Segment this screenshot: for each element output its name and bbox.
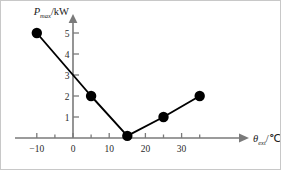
y-axis-tick-label: 2 — [65, 92, 70, 102]
data-point-marker — [86, 91, 96, 101]
x-axis-tick-label: −10 — [29, 144, 44, 154]
x-axis-tick-label: 0 — [71, 144, 76, 154]
data-point-marker — [158, 112, 168, 122]
chart-plot-area: −100102030 12345 Pmax/kW θext/℃ — [1, 1, 280, 169]
data-series-markers — [32, 28, 205, 141]
y-axis-title: Pmax/kW — [33, 6, 69, 19]
y-axis-arrow-icon — [69, 14, 78, 23]
y-axis-tick-labels: 12345 — [65, 29, 70, 123]
data-point-marker — [122, 131, 132, 141]
y-axis-tick-label: 4 — [65, 50, 70, 60]
y-axis-title-subscript: max — [40, 12, 51, 19]
x-axis-tick-labels: −100102030 — [29, 144, 186, 154]
x-axis-title: θext/℃ — [253, 133, 280, 146]
x-axis-tick-label: 30 — [177, 144, 187, 154]
x-axis-arrow-icon — [239, 134, 249, 143]
x-axis-title-unit: /℃ — [266, 133, 280, 144]
chart-figure: −100102030 12345 Pmax/kW θext/℃ — [0, 0, 281, 170]
x-axis-tick-label: 10 — [104, 144, 114, 154]
y-axis-tick-label: 3 — [65, 71, 70, 81]
x-axis-tick-label: 20 — [141, 144, 151, 154]
y-axis-tick-label: 1 — [65, 113, 70, 123]
y-axis-tick-label: 5 — [65, 29, 70, 39]
data-point-marker — [32, 28, 42, 38]
y-axis-title-unit: /kW — [51, 6, 69, 17]
data-series-line — [37, 33, 200, 136]
data-point-marker — [195, 91, 205, 101]
